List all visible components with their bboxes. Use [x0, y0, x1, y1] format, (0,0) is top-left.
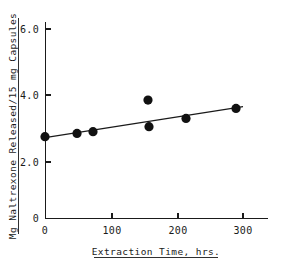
y-axis-title: Mg Naltrexone Released/15 mg Capsules	[7, 13, 18, 239]
x-tick-label-0: 0	[42, 225, 48, 236]
scatter-plot: 6.0 4.0 2.0 0 0 100 200 300 Extraction T…	[0, 0, 281, 266]
x-tick-label-100: 100	[103, 225, 122, 236]
data-point	[88, 127, 97, 136]
chart-figure: 6.0 4.0 2.0 0 0 100 200 300 Extraction T…	[0, 0, 281, 266]
data-point	[72, 129, 81, 138]
data-point	[40, 132, 49, 141]
data-point	[143, 96, 152, 105]
data-point	[181, 114, 190, 123]
y-tick-label-2: 2.0	[20, 157, 39, 168]
y-tick-label-0: 0	[33, 213, 39, 224]
y-tick-label-4: 4.0	[20, 90, 39, 101]
x-tick-label-300: 300	[234, 225, 253, 236]
x-tick-label-200: 200	[169, 225, 188, 236]
data-point	[231, 104, 240, 113]
x-axis-title: Extraction Time, hrs.	[92, 246, 221, 257]
data-point	[144, 122, 153, 131]
y-tick-label-6: 6.0	[20, 24, 39, 35]
